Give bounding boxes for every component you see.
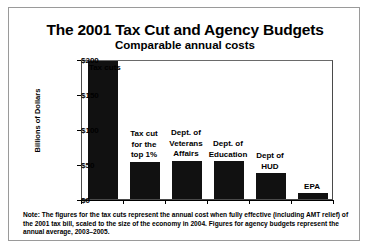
x-axis-tick-mark: [207, 200, 208, 204]
bar: [172, 161, 202, 200]
x-axis-tick-mark: [123, 200, 124, 204]
bar-label: Tax cuts: [89, 63, 148, 74]
bar-label: Dept of HUD: [244, 151, 296, 172]
y-axis-tick-mark: [77, 165, 81, 166]
bar: [256, 173, 286, 199]
y-axis-tick-mark: [77, 95, 81, 96]
x-axis-tick-mark: [165, 200, 166, 204]
bar: [298, 193, 328, 199]
chart-note: Note: The figures for the tax cuts repre…: [23, 211, 349, 237]
y-axis-tick-mark: [77, 60, 81, 61]
bar: [130, 162, 160, 199]
chart-frame: The 2001 Tax Cut and Agency Budgets Comp…: [8, 7, 360, 241]
bar: [214, 161, 244, 199]
y-axis-tick-mark: [77, 130, 81, 131]
y-axis-title: Billions of Dollars: [33, 71, 42, 171]
x-axis-tick-mark: [291, 200, 292, 204]
x-axis-tick-mark: [249, 200, 250, 204]
bar-label: EPA: [286, 182, 338, 193]
bar-chart: Billions of Dollars $0$50$100$150$200 Ta…: [9, 8, 361, 242]
x-axis-tick-mark: [333, 200, 334, 204]
x-axis-tick-mark: [81, 200, 82, 204]
